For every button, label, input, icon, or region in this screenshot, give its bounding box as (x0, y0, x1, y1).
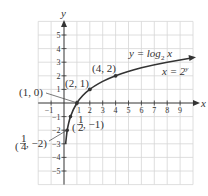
y-tick-label: 3 (57, 58, 61, 67)
curve-arrow-icon (189, 55, 197, 61)
label-quarter-open: ( (15, 140, 19, 153)
x-axis-label: x (200, 97, 206, 109)
label-half-rest: , −1) (83, 118, 104, 131)
y-tick-label: −3 (52, 140, 61, 149)
x-tick-label: 7 (152, 106, 156, 115)
eq1-prefix: y = log (128, 47, 161, 59)
x-axis-arrow-icon (193, 100, 200, 106)
y-axis-label: y (60, 7, 66, 19)
equation-exp: x = 2y (161, 65, 189, 77)
log-graph: x y −1 2 3 4 5 6 7 8 9 1 (0, 0, 208, 196)
y-tick-label: 2 (57, 72, 61, 81)
point-half (69, 115, 73, 119)
eq1-suffix: x (164, 47, 172, 59)
x-tick-label: 3 (101, 106, 105, 115)
label-2-1: (2, 1) (65, 77, 89, 90)
leader-1-0 (46, 93, 76, 103)
y-tick-label: −4 (52, 153, 61, 162)
y-tick-label: −2 (52, 126, 61, 135)
label-4-2: (4, 2) (92, 62, 116, 75)
point-1-0 (75, 101, 79, 105)
x-tick-label: 2 (88, 106, 92, 115)
equation-log: y = log2 x (128, 47, 172, 62)
y-tick-label: −5 (52, 167, 61, 176)
x-tick-label: 6 (139, 106, 143, 115)
eq2-sup: y (184, 65, 189, 73)
point-quarter (65, 128, 69, 132)
x-tick-label: 8 (165, 106, 169, 115)
label-quarter: ( 1 4 , −2) (15, 132, 47, 153)
label-half-open: ( (72, 121, 76, 134)
y-tick-label: 5 (57, 31, 61, 40)
label-1-0: (1, 0) (19, 86, 43, 99)
x-tick-label: 5 (127, 106, 131, 115)
x-tick-label: 4 (114, 106, 118, 115)
y-tick-label: 4 (57, 45, 61, 54)
x-tick-label: 9 (178, 106, 182, 115)
y-tick-label: 1 (57, 85, 61, 94)
point-4-2 (114, 74, 118, 78)
label-quarter-rest: , −2) (26, 137, 47, 150)
x-tick-labels: −1 2 3 4 5 6 7 8 9 1 (45, 106, 182, 115)
y-tick-label: −1 (52, 113, 61, 122)
eq2-prefix: x = 2 (161, 65, 186, 77)
